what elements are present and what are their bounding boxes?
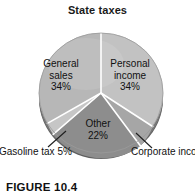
slice-label-other: Other 22%: [74, 118, 122, 141]
slice-label-corporate-income-line2: income: [178, 146, 195, 157]
slice-label-general-sales-pct: 34%: [33, 81, 89, 93]
slice-label-general-sales: General sales 34%: [33, 58, 89, 93]
slice-label-personal-income: Personal income 34%: [101, 58, 159, 93]
slice-label-gasoline-tax-line1: Gasoline: [0, 146, 38, 157]
pie-chart: [0, 0, 195, 195]
slice-label-personal-income-line1: Personal: [110, 58, 149, 69]
slice-label-other-line1: Other: [85, 118, 110, 129]
slice-label-corporate-income: Corporate income 5%: [131, 146, 195, 158]
figure-caption: FIGURE 10.4: [6, 181, 77, 193]
slice-label-gasoline-tax-line2: tax: [41, 146, 54, 157]
slice-label-other-pct: 22%: [74, 130, 122, 142]
slice-label-corporate-income-line1: Corporate: [131, 146, 175, 157]
slice-label-gasoline-tax-pct: 5%: [57, 146, 71, 157]
slice-label-general-sales-line2: sales: [33, 70, 89, 82]
slice-label-personal-income-line2: income: [101, 70, 159, 82]
slice-label-general-sales-line1: General: [43, 58, 79, 69]
slice-label-gasoline-tax: Gasoline tax 5%: [0, 146, 63, 158]
slice-label-personal-income-pct: 34%: [101, 81, 159, 93]
figure-container: State taxes: [0, 0, 195, 195]
